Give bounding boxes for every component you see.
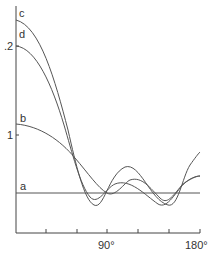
curve-label-d: d [19,28,25,40]
curve-label-c: c [19,7,25,19]
x-tick-label-90: 90° [98,239,115,251]
curve-d [16,46,200,205]
curve-label-a: a [20,180,27,192]
x-tick-label-180: 180° [185,239,208,251]
y-tick-label-2: .2 [4,40,13,52]
curve-label-b: b [20,112,26,124]
y-tick-label-1: 1 [7,129,13,141]
chart: 1 .2 90° 180° c d b a [0,0,212,255]
curve-c [16,20,200,205]
